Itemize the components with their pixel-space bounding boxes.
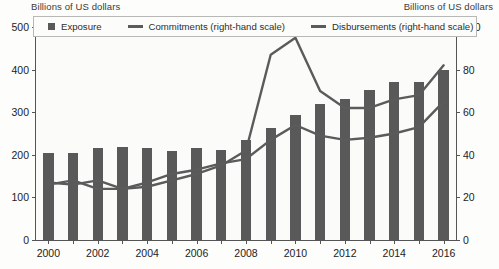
y-tick-right: [456, 155, 460, 156]
y-tick-right: [456, 240, 460, 241]
x-tick-2010: [295, 240, 296, 244]
chart-root: Billions of US dollars Billions of US do…: [0, 0, 499, 269]
x-tick-2007: [221, 240, 222, 244]
y-tick-label-right-40: 40: [463, 149, 475, 161]
y-tick-right: [456, 112, 460, 113]
legend-label-disbursements: Disbursements (right-hand scale): [332, 21, 473, 32]
x-tick-2001: [73, 240, 74, 244]
x-tick-2015: [419, 240, 420, 244]
x-tick-2013: [370, 240, 371, 244]
y-tick-label-right-60: 60: [463, 106, 475, 118]
x-tick-label-2008: 2008: [234, 247, 257, 259]
x-tick-label-2010: 2010: [284, 247, 307, 259]
x-tick-2008: [246, 240, 247, 244]
chart-legend: Exposure Commitments (right-hand scale) …: [33, 16, 477, 37]
legend-item-disbursements: Disbursements (right-hand scale): [311, 21, 473, 32]
y-tick-left: [32, 240, 36, 241]
y-tick-left: [32, 112, 36, 113]
x-tick-2002: [98, 240, 99, 244]
y-tick-label-left-100: 100: [11, 191, 29, 203]
x-tick-2009: [271, 240, 272, 244]
y-tick-right: [456, 70, 460, 71]
y-tick-left: [32, 70, 36, 71]
y-tick-left: [32, 197, 36, 198]
x-tick-2004: [147, 240, 148, 244]
y-tick-label-left-500: 500: [11, 21, 29, 33]
x-tick-2011: [320, 240, 321, 244]
line-disbursements: [48, 102, 443, 189]
y-tick-label-left-400: 400: [11, 64, 29, 76]
y-tick-label-right-80: 80: [463, 64, 475, 76]
y-tick-label-right-0: 0: [463, 234, 469, 246]
x-tick-2014: [394, 240, 395, 244]
x-tick-2005: [172, 240, 173, 244]
x-tick-2003: [122, 240, 123, 244]
x-tick-label-2006: 2006: [185, 247, 208, 259]
line-series-layer: [36, 27, 456, 240]
legend-label-commitments: Commitments (right-hand scale): [149, 21, 286, 32]
legend-square-icon: [48, 23, 55, 30]
right-axis-title: Billions of US dollars: [404, 1, 493, 12]
legend-item-commitments: Commitments (right-hand scale): [128, 21, 286, 32]
y-tick-left: [32, 155, 36, 156]
x-tick-2000: [48, 240, 49, 244]
line-commitments: [48, 38, 443, 189]
legend-label-exposure: Exposure: [61, 21, 102, 32]
y-tick-label-left-0: 0: [23, 234, 29, 246]
plot-area: 0100200300400500020406080100200020022004…: [35, 26, 457, 241]
y-tick-label-right-20: 20: [463, 191, 475, 203]
x-tick-label-2004: 2004: [135, 247, 158, 259]
x-tick-2006: [197, 240, 198, 244]
x-tick-2012: [345, 240, 346, 244]
legend-line-icon: [128, 25, 143, 28]
x-tick-label-2002: 2002: [86, 247, 109, 259]
y-tick-label-left-200: 200: [11, 149, 29, 161]
x-tick-label-2012: 2012: [333, 247, 356, 259]
x-tick-2016: [444, 240, 445, 244]
x-tick-label-2014: 2014: [383, 247, 406, 259]
x-tick-label-2016: 2016: [432, 247, 455, 259]
y-tick-right: [456, 197, 460, 198]
x-tick-label-2000: 2000: [37, 247, 60, 259]
plot-inner: [36, 27, 456, 240]
left-axis-title: Billions of US dollars: [31, 1, 120, 12]
y-tick-label-left-300: 300: [11, 106, 29, 118]
legend-line-icon: [311, 25, 326, 28]
legend-item-exposure: Exposure: [48, 21, 102, 32]
